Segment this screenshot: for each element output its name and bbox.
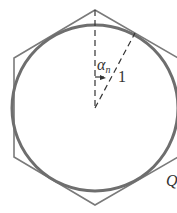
inscribed-circle [12, 25, 177, 191]
angle-label: αn [97, 56, 110, 75]
point-label-q: Q [166, 172, 177, 189]
angle-arrowhead [100, 75, 106, 80]
radius-label: 1 [118, 68, 126, 85]
hexagon-circle-diagram: αn 1 Q [0, 0, 177, 213]
